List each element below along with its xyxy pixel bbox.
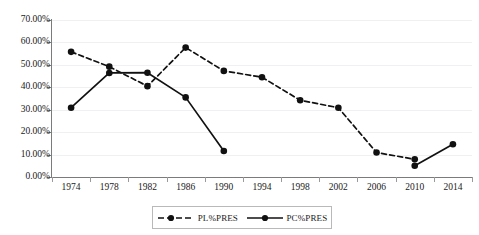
data-point[interactable] [68,104,75,111]
data-point[interactable] [373,149,380,156]
data-point[interactable] [144,69,151,76]
legend-swatch-solid-icon [246,213,284,223]
data-point[interactable] [144,83,151,90]
data-point[interactable] [450,141,457,148]
data-point[interactable] [259,74,266,81]
legend-item-pl[interactable]: PL%PRES [157,213,238,223]
series-line [415,144,453,166]
series-pl-pres [68,44,418,162]
data-point[interactable] [182,44,189,51]
data-point[interactable] [297,97,304,104]
data-point[interactable] [106,63,113,70]
series-pc-pres [68,69,456,169]
legend-label-pc: PC%PRES [287,213,328,223]
data-point[interactable] [221,148,228,155]
data-point[interactable] [411,162,418,169]
legend-item-pc[interactable]: PC%PRES [246,213,328,223]
series-line [71,48,415,160]
data-point[interactable] [106,70,113,77]
data-series-layer [0,0,479,235]
data-point[interactable] [335,104,342,111]
data-point[interactable] [221,68,228,75]
data-point[interactable] [68,49,75,56]
legend-label-pl: PL%PRES [198,213,238,223]
chart-legend: PL%PRES PC%PRES [152,206,332,229]
data-point[interactable] [182,94,189,101]
data-point[interactable] [411,156,418,163]
legend-swatch-dashed-icon [157,213,195,223]
chart-container: 0.00%10.00%20.00%30.00%40.00%50.00%60.00… [0,0,479,235]
